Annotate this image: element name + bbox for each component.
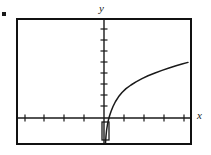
- x-axis-label: x: [197, 110, 202, 121]
- bullet-marker: [2, 12, 6, 16]
- graph-figure: y x: [0, 0, 211, 155]
- plot-frame: [16, 18, 192, 145]
- y-axis-label: y: [99, 3, 104, 14]
